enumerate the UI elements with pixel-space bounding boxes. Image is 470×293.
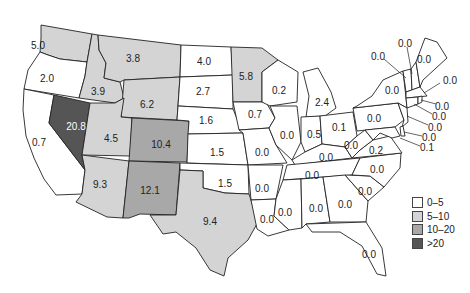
state-value-florida: 0.0 <box>362 249 376 260</box>
state-value-north-carolina: 0.0 <box>370 164 384 175</box>
state-value-iowa: 0.7 <box>248 109 262 120</box>
state-value-connecticut: 0.0 <box>432 111 446 122</box>
legend-label: >20 <box>427 238 444 249</box>
legend: 0–5 5–10 10–20 >20 <box>412 196 455 250</box>
state-value-washington: 5.0 <box>31 40 45 51</box>
state-value-south-carolina: 0.0 <box>358 186 372 197</box>
state-value-minnesota: 5.8 <box>239 71 253 82</box>
legend-label: 10–20 <box>427 224 455 235</box>
state-value-indiana: 0.5 <box>307 129 321 140</box>
state-value-kansas: 1.5 <box>210 147 224 158</box>
state-value-new-york: 0.0 <box>385 85 399 96</box>
state-value-maryland: 0.1 <box>420 142 434 153</box>
state-value-missouri: 0.0 <box>255 147 269 158</box>
state-value-colorado: 10.4 <box>151 139 170 150</box>
state-value-wyoming: 6.2 <box>140 99 154 110</box>
state-value-texas: 9.4 <box>203 216 217 227</box>
legend-swatch <box>412 224 423 235</box>
state-value-ohio: 0.1 <box>332 122 346 133</box>
legend-item-0-5: 0–5 <box>412 196 455 210</box>
state-value-wisconsin: 0.2 <box>272 85 286 96</box>
legend-item-over-20: >20 <box>412 237 455 251</box>
state-value-louisiana: 0.0 <box>260 214 274 225</box>
state-value-north-dakota: 4.0 <box>197 56 211 67</box>
legend-swatch <box>412 197 423 208</box>
state-value-montana: 3.8 <box>126 53 140 64</box>
state-value-michigan: 2.4 <box>315 97 329 108</box>
state-value-new-hampshire: 0.0 <box>398 38 412 49</box>
state-value-georgia: 0.0 <box>338 199 352 210</box>
state-value-mississippi: 0.0 <box>278 207 292 218</box>
state-value-new-mexico: 12.1 <box>140 185 159 196</box>
legend-swatch <box>412 238 423 249</box>
state-value-california: 0.7 <box>32 137 46 148</box>
state-value-alabama: 0.0 <box>309 203 323 214</box>
state-value-massachusetts: 0.0 <box>443 75 457 86</box>
state-value-nebraska: 1.6 <box>199 115 213 126</box>
state-value-idaho: 3.9 <box>91 86 105 97</box>
state-connecticut <box>406 97 418 108</box>
state-value-south-dakota: 2.7 <box>196 86 210 97</box>
state-value-maine: 0.0 <box>417 54 431 65</box>
state-delaware <box>400 126 405 136</box>
state-value-pennsylvania: 0.0 <box>367 113 381 124</box>
state-value-west-virginia: 0.0 <box>344 140 358 151</box>
state-value-tennessee: 0.0 <box>305 170 319 181</box>
state-value-nevada: 20.8 <box>66 121 85 132</box>
legend-item-10-20: 10–20 <box>412 223 455 237</box>
state-value-kentucky: 0.0 <box>319 152 333 163</box>
legend-item-5-10: 5–10 <box>412 210 455 224</box>
state-value-arizona: 9.3 <box>93 179 107 190</box>
legend-label: 5–10 <box>427 211 449 222</box>
state-michigan <box>303 68 336 117</box>
state-value-oklahoma: 1.5 <box>218 178 232 189</box>
state-value-vermont: 0.0 <box>371 51 385 62</box>
state-value-utah: 4.5 <box>104 133 118 144</box>
state-value-arkansas: 0.0 <box>255 183 269 194</box>
legend-label: 0–5 <box>427 197 444 208</box>
state-value-oregon: 2.0 <box>40 73 54 84</box>
legend-swatch <box>412 211 423 222</box>
state-value-illinois: 0.0 <box>280 130 294 141</box>
state-value-virginia: 0.2 <box>369 145 383 156</box>
